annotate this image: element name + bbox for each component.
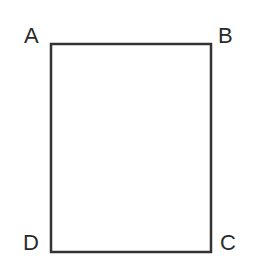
vertex-label-a: A <box>24 23 39 48</box>
rectangle-diagram: A B C D <box>0 0 254 260</box>
rectangle-abcd <box>51 44 211 252</box>
vertex-label-b: B <box>218 23 233 48</box>
vertex-label-c: C <box>220 230 236 255</box>
vertex-label-d: D <box>23 230 39 255</box>
